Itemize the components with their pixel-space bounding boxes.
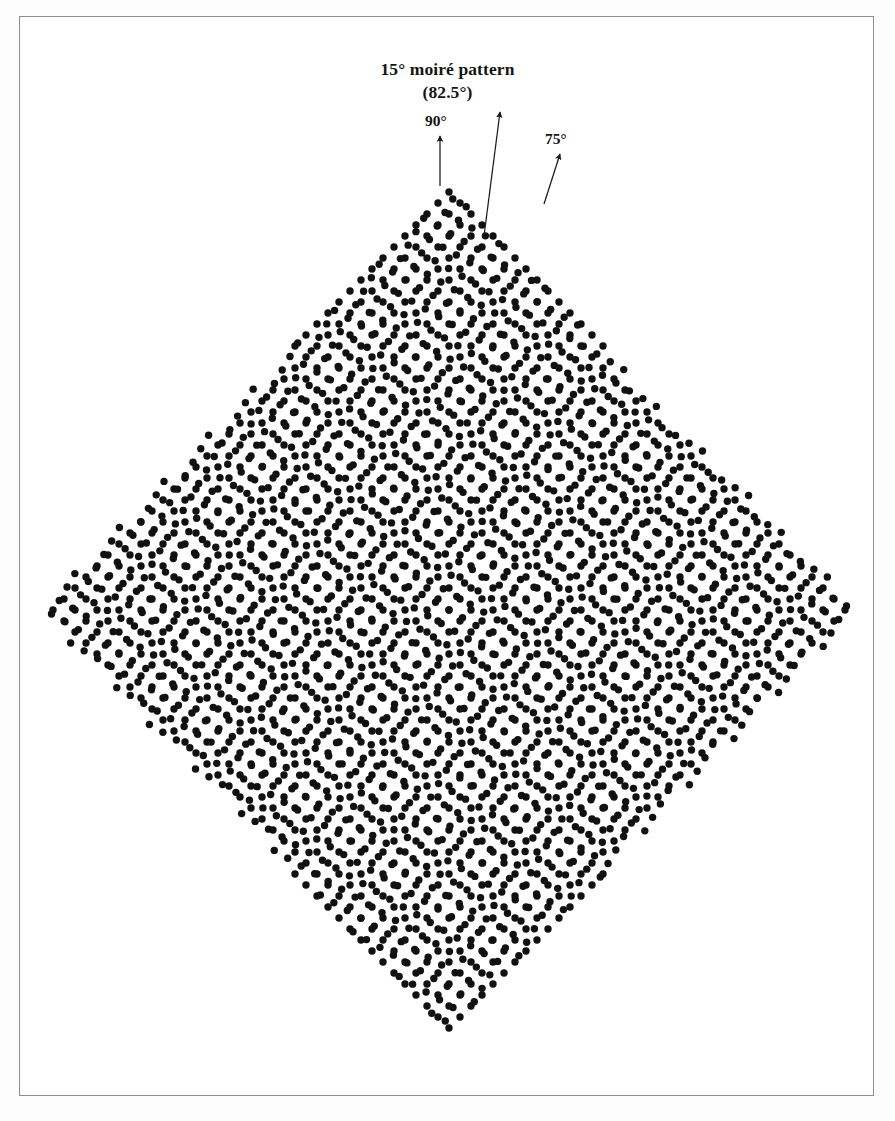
moire-figure: 15° moiré pattern (82.5°) 90° 75°: [0, 0, 895, 1121]
annotation-arrows: [0, 0, 895, 1121]
arrow-75: [544, 154, 560, 204]
arrow-82_5: [484, 112, 500, 236]
page-canvas: 15° moiré pattern (82.5°) 90° 75°: [0, 0, 895, 1121]
